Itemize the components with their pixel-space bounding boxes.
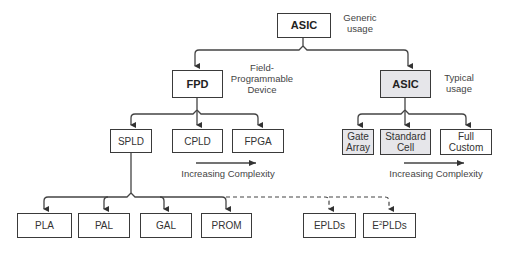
gate-array-node: Gate Array [342, 129, 374, 155]
connector-lines [0, 0, 508, 256]
fpd-description-note: Field- Programmable Device [226, 62, 298, 95]
gal-node: GAL [140, 213, 192, 238]
generic-usage-note: Generic usage [336, 12, 384, 34]
pla-node: PLA [17, 213, 72, 238]
spld-node: SPLD [110, 129, 152, 153]
fpd-node: FPD [172, 70, 223, 98]
typical-usage-note: Typical usage [436, 72, 482, 94]
fpd-label: FPD [187, 79, 209, 90]
standard-cell-node: Standard Cell [380, 129, 431, 155]
cpld-node: CPLD [172, 129, 223, 153]
pal-node: PAL [78, 213, 130, 238]
prom-node: PROM [201, 213, 252, 238]
e2plds-label: E2PLDs [372, 220, 406, 231]
complexity-label-left: Increasing Complexity [180, 168, 276, 179]
complexity-label-right: Increasing Complexity [388, 168, 484, 179]
asic-typical-label: ASIC [392, 79, 418, 90]
fpga-node: FPGA [232, 129, 284, 153]
asic-root-node: ASIC [277, 13, 331, 38]
asic-typical-node: ASIC [380, 70, 431, 98]
eplds-node: EPLDs [303, 213, 356, 238]
asic-root-label: ASIC [291, 20, 317, 31]
full-custom-node: Full Custom [440, 129, 492, 155]
e2plds-node: E2PLDs [363, 213, 416, 238]
